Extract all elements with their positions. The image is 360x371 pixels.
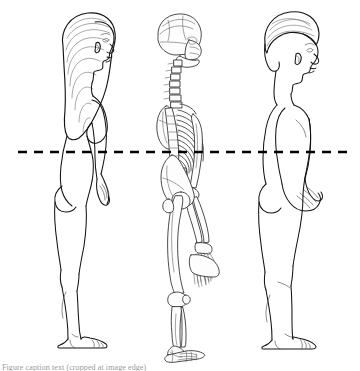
caption-strip: Figure caption text (cropped at image ed… — [0, 363, 360, 371]
anatomy-illustration: .ol{fill:#ffffff;stroke:#141414;stroke-w… — [0, 0, 360, 371]
cervical-spine — [170, 60, 182, 108]
figure-caption: Figure caption text (cropped at image ed… — [2, 363, 146, 371]
figure-canvas: .ol{fill:#ffffff;stroke:#141414;stroke-w… — [0, 0, 360, 371]
